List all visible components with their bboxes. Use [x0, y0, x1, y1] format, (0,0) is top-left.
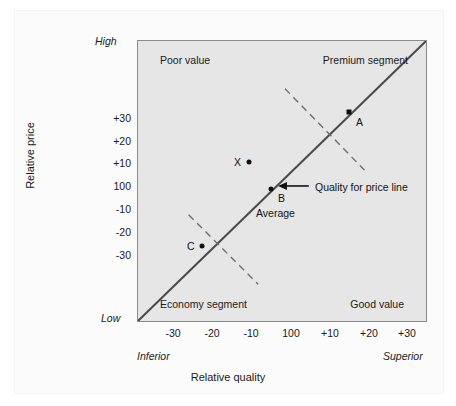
quadrant-label-top-left: Poor value [160, 55, 210, 66]
plot-area: Poor value Premium segment Economy segme… [137, 40, 427, 322]
y-axis-ticks: +30 +20 +10 100 -10 -20 -30 [86, 40, 131, 322]
data-point-b-label: B [278, 193, 285, 204]
x-axis-title: Relative quality [0, 372, 456, 383]
y-tick-label: +10 [113, 158, 131, 169]
upper-perpendicular-dashed-line [285, 89, 364, 170]
lower-perpendicular-dashed-line [189, 215, 259, 285]
x-tick-label: -20 [204, 328, 219, 339]
quadrant-label-bottom-right: Good value [350, 299, 404, 310]
y-axis-title: Relative price [25, 86, 36, 226]
quadrant-label-top-right: Premium segment [323, 55, 408, 66]
data-point-a [347, 110, 352, 115]
x-tick-label: -30 [165, 328, 180, 339]
quality-for-price-line-annotation: Quality for price line [315, 182, 408, 193]
y-axis-low-label: Low [101, 313, 120, 324]
x-axis-ticks: -30 -20 -10 100 +10 +20 +30 [137, 328, 427, 342]
x-tick-label: +30 [398, 328, 416, 339]
data-point-x [247, 160, 252, 165]
x-tick-label: -10 [243, 328, 258, 339]
y-tick-label: -10 [116, 204, 131, 215]
annotation-arrow-icon [278, 182, 309, 190]
x-axis-low-label: Inferior [137, 351, 170, 362]
y-tick-label: 100 [113, 181, 131, 192]
data-point-b [269, 187, 274, 192]
quadrant-label-bottom-left: Economy segment [160, 299, 247, 310]
x-axis-high-label: Superior [383, 351, 423, 362]
x-tick-label: 100 [282, 328, 300, 339]
data-point-x-label: X [234, 157, 241, 168]
y-axis-high-label: High [95, 36, 117, 47]
x-tick-label: +20 [360, 328, 378, 339]
y-tick-label: +20 [113, 136, 131, 147]
data-point-b-sublabel: Average [256, 208, 295, 219]
y-tick-label: -30 [116, 250, 131, 261]
y-tick-label: -20 [116, 227, 131, 238]
y-tick-label: +30 [113, 113, 131, 124]
data-point-c-label: C [187, 241, 195, 252]
data-point-a-label: A [356, 117, 363, 128]
data-point-c [200, 244, 205, 249]
x-tick-label: +10 [321, 328, 339, 339]
figure-root: Poor value Premium segment Economy segme… [0, 0, 456, 406]
